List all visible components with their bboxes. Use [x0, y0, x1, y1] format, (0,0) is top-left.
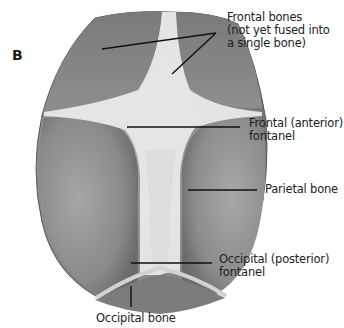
- parietal-bone-left: [39, 117, 138, 300]
- label-occipital-fontanel: Occipital (posterior) fontanel: [219, 253, 329, 279]
- label-parietal-bone: Parietal bone: [265, 183, 338, 196]
- skull-diagram: B Frontal bones (not yet fused into a si…: [0, 0, 344, 328]
- label-frontal-bones: Frontal bones (not yet fused into a sing…: [227, 11, 330, 50]
- label-frontal-fontanel: Frontal (anterior) fontanel: [249, 117, 343, 143]
- label-occipital-bone: Occipital bone: [96, 312, 176, 325]
- panel-letter: B: [12, 47, 23, 63]
